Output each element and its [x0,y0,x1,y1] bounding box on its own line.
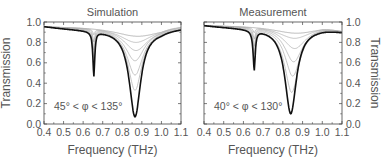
y-tick-label: 0.4 [26,77,41,89]
y-axis-label: Transmission [368,38,381,109]
y-tick-label: 0.2 [26,97,41,109]
figure: 0.40.50.60.70.80.91.01.10.00.20.40.60.81… [0,0,381,163]
x-tick-label: 0.7 [256,126,271,138]
x-tick-label: 0.8 [115,126,130,138]
x-tick-label: 0.6 [236,126,251,138]
panel-title: Simulation [87,6,138,18]
simulation-panel: 0.40.50.60.70.80.91.01.10.00.20.40.60.81… [0,6,188,157]
y-tick-label: 0.8 [346,36,361,48]
x-tick-label: 1.0 [315,126,330,138]
series-line [204,26,342,93]
series-line [204,26,342,49]
x-tick-label: 0.6 [76,126,91,138]
y-axis-label: Transmission [0,38,13,109]
x-axis-label: Frequency (THz) [228,143,318,157]
x-tick-label: 1.1 [174,126,189,138]
y-tick-label: 1.0 [26,16,41,28]
y-tick-label: 0.8 [26,36,41,48]
x-tick-label: 1.0 [154,126,169,138]
x-tick-label: 0.9 [295,126,310,138]
y-tick-label: 1.0 [346,16,361,28]
y-tick-label: 0.6 [346,56,361,68]
chart-canvas: 0.40.50.60.70.80.91.01.10.00.20.40.60.81… [0,0,381,163]
x-tick-label: 0.5 [216,126,231,138]
panel-title: Measurement [239,6,306,18]
y-tick-label: 0.0 [26,118,41,130]
angle-range-annotation: 45° < φ < 135° [54,100,122,112]
y-tick-label: 0.2 [346,97,361,109]
y-tick-label: 0.4 [346,77,361,89]
y-tick-label: 0.6 [26,56,41,68]
x-tick-label: 0.8 [276,126,291,138]
measurement-panel: 0.40.50.60.70.80.91.01.10.00.20.40.60.81… [197,6,381,157]
y-tick-label: 0.0 [346,118,361,130]
x-axis-label: Frequency (THz) [67,143,157,157]
x-tick-label: 0.4 [197,126,212,138]
x-tick-label: 0.7 [95,126,110,138]
angle-range-annotation: 40° < φ < 130° [214,100,282,112]
x-tick-label: 0.9 [135,126,150,138]
x-tick-label: 0.5 [56,126,71,138]
